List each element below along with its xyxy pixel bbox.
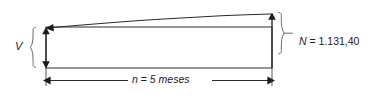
period-label: n = 5 meses	[132, 74, 190, 85]
future-value-label: N = 1.131,40	[299, 36, 359, 47]
capital-block-rect	[46, 27, 272, 68]
growth-curve-arrow-icon	[50, 14, 272, 28]
left-curly-brace-icon	[30, 28, 35, 68]
present-value-label: V	[15, 41, 22, 52]
period-equals: =	[141, 73, 147, 85]
cash-flow-diagram: V N = 1.131,40 n = 5 meses	[0, 0, 382, 105]
right-curly-brace-icon	[279, 13, 285, 54]
future-value-symbol: N	[299, 35, 307, 47]
arrow-right-icon	[267, 77, 275, 85]
period-symbol: n	[132, 73, 138, 85]
period-count: 5	[150, 73, 156, 85]
diagram-canvas	[0, 0, 382, 105]
future-value-equals: =	[310, 35, 316, 47]
arrow-down-icon	[42, 61, 50, 68]
period-unit: meses	[159, 73, 190, 85]
future-value-amount: 1.131,40	[319, 35, 360, 47]
arrow-left-icon	[43, 77, 51, 85]
